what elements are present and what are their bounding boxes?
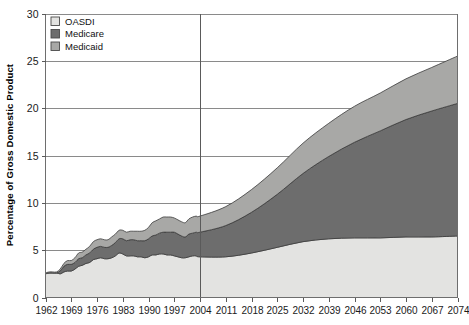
x-tick-label-2018: 2018 xyxy=(241,305,264,316)
x-tick-label-1962: 1962 xyxy=(35,305,58,316)
legend-label-oasdi: OASDI xyxy=(65,16,95,27)
x-tick-label-2025: 2025 xyxy=(266,305,289,316)
y-tick-label-0: 0 xyxy=(33,292,39,304)
y-axis-ticks: 051015202530 xyxy=(27,8,46,304)
x-tick-label-2067: 2067 xyxy=(421,305,444,316)
x-tick-label-2046: 2046 xyxy=(344,305,367,316)
x-tick-label-2060: 2060 xyxy=(395,305,418,316)
y-tick-label-20: 20 xyxy=(27,102,39,114)
y-axis-title: Percentage of Gross Domestic Product xyxy=(4,63,15,246)
legend-label-medicare: Medicare xyxy=(65,28,104,39)
legend-swatch-oasdi xyxy=(51,17,60,26)
x-tick-label-1983: 1983 xyxy=(112,305,135,316)
y-tick-label-30: 30 xyxy=(27,8,39,20)
x-tick-label-2011: 2011 xyxy=(216,305,238,316)
y-tick-label-25: 25 xyxy=(27,55,39,67)
x-tick-label-2004: 2004 xyxy=(189,305,212,316)
x-tick-label-1990: 1990 xyxy=(138,305,161,316)
stacked-area-chart: 051015202530 196219691976198319901997200… xyxy=(0,0,469,325)
y-tick-label-15: 15 xyxy=(27,150,39,162)
x-tick-label-2039: 2039 xyxy=(318,305,341,316)
y-tick-label-5: 5 xyxy=(33,244,39,256)
x-tick-label-2032: 2032 xyxy=(292,305,315,316)
legend-swatch-medicaid xyxy=(51,42,60,51)
x-axis-ticks: 1962196919761983199019972004201120182025… xyxy=(35,298,469,316)
chart-container: 051015202530 196219691976198319901997200… xyxy=(0,0,469,325)
x-tick-label-1997: 1997 xyxy=(163,305,186,316)
legend-swatch-medicare xyxy=(51,30,60,39)
y-axis-title-group: Percentage of Gross Domestic Product xyxy=(4,63,15,246)
x-tick-label-2074: 2074 xyxy=(447,305,469,316)
x-tick-label-2053: 2053 xyxy=(369,305,392,316)
y-tick-label-10: 10 xyxy=(27,197,39,209)
x-tick-label-1976: 1976 xyxy=(86,305,109,316)
x-tick-label-1969: 1969 xyxy=(60,305,83,316)
legend-label-medicaid: Medicaid xyxy=(65,41,103,52)
